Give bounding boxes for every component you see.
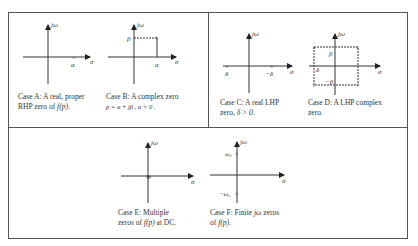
panel-f-caption-math: f(p) (218, 218, 229, 227)
panel-a-alpha-label: α (71, 61, 75, 69)
panel-c-zero-marker-left: × (225, 64, 228, 70)
panel-d-zero-marker-tr: × (356, 45, 359, 51)
panel-b-real-label: σ (175, 58, 179, 66)
panel-f-zero-marker-top: × (235, 151, 238, 157)
panel-c-neg-delta-label: −δ (265, 70, 274, 78)
panel-f-caption-line1-prefix: : Finite (231, 208, 254, 217)
zero-location-figure: jω σ × α jω σ × β α jω σ × × δ −δ (0, 0, 418, 246)
panel-c-caption-suffix: . (253, 108, 255, 117)
panel-d-case-label: Case D (308, 98, 330, 107)
panel-d-imag-label: jω (337, 30, 345, 38)
panel-c-plot: jω σ × × δ −δ (223, 30, 294, 93)
panel-b-alpha-label: α (155, 61, 159, 69)
panel-e-caption-suffix: at DC. (155, 218, 176, 227)
panel-a-plot: jω σ × α (23, 21, 94, 84)
panel-f-caption-line2-prefix: of (210, 218, 218, 227)
panel-f-caption-suffix: . (229, 218, 231, 227)
panel-d-zero-marker-bl: × (312, 83, 315, 89)
panel-b-caption-line1: : A complex zero (127, 92, 178, 101)
panel-c-case-label: Case C (220, 98, 241, 107)
panel-e-real-label: σ (191, 178, 195, 186)
panel-c-caption: Case C: A real LHP zero, δ > 0. (220, 98, 279, 117)
panel-d-real-label: σ (378, 68, 382, 76)
panel-b-zero-marker: × (155, 35, 158, 41)
panel-f-neg-omega-label: −ω₀ (219, 190, 230, 197)
panel-a-caption-suffix: . (68, 102, 70, 111)
diagram-canvas: jω σ × α jω σ × β α jω σ × × δ −δ (0, 0, 418, 246)
panel-e-caption-line1: : Multiple (139, 208, 169, 217)
panel-b-beta-label: β (126, 35, 131, 43)
panel-a-real-label: σ (90, 58, 94, 66)
panel-d-beta-label: β (328, 50, 333, 58)
panel-d-plot: jω σ × × × × β δ −β (309, 30, 382, 95)
panel-f-caption: Case F: Finite jω zeros of f(p). (210, 208, 279, 227)
panel-c-caption-line1: : A real LHP (241, 98, 279, 107)
panel-f-case-label: Case F (210, 208, 231, 217)
panel-a-caption: Case A: A real, proper RHP zero of f(p). (18, 92, 84, 111)
panel-b-plot: jω σ × β α (108, 21, 179, 84)
panel-d-zero-marker-br: × (356, 83, 359, 89)
panel-d-caption-line1: : A LHP complex (330, 98, 382, 107)
panel-f-imag-label: jω (239, 138, 247, 146)
panel-b-case-label: Case B (106, 92, 127, 101)
panel-f-zero-marker-bottom: × (235, 191, 238, 197)
panel-a-imag-label: jω (50, 21, 58, 29)
panel-a-caption-line2-prefix: RHP zero of (18, 102, 57, 111)
panel-e-caption-line2-prefix: zeros of (118, 218, 144, 227)
panel-d-neg-beta-label: −β (325, 78, 334, 86)
panel-b-imag-label: jω (136, 21, 144, 29)
panel-f-plot: jω σ × × ω₀ −ω₀ (210, 138, 286, 203)
panel-a-caption-line1: : A real, proper (39, 92, 84, 101)
panel-c-caption-line2-prefix: zero, (220, 108, 237, 117)
panel-d-delta-label: δ (316, 66, 320, 74)
panel-d-zero-marker-tl: × (312, 45, 315, 51)
panel-e-plot: jω σ ⊗ (121, 139, 195, 203)
panel-f-omega-label: ω₀ (225, 150, 232, 157)
panel-e-case-label: Case E (118, 208, 139, 217)
panel-e-zero-marker: ⊗ (146, 174, 151, 180)
panel-f-real-label: σ (282, 177, 286, 185)
panel-d-caption-line2: zero. (308, 108, 323, 117)
panel-a-zero-marker: × (72, 55, 75, 61)
panel-c-delta-label: δ (225, 70, 229, 78)
panel-c-zero-marker-right: × (270, 64, 273, 70)
panel-c-imag-label: jω (251, 30, 259, 38)
panel-c-caption-math: δ > 0 (237, 108, 253, 117)
panel-e-caption: Case E: Multiple zeros of f(p) at DC. (118, 208, 176, 227)
panel-a-case-label: Case A (18, 92, 39, 101)
panel-b-caption: Case B: A complex zero p = α + jβ , α > … (106, 92, 179, 111)
panel-e-caption-math: f(p) (144, 218, 155, 227)
panel-c-real-label: σ (290, 68, 294, 76)
panel-d-caption: Case D: A LHP complex zero. (308, 98, 382, 117)
panel-a-caption-math: f(p) (57, 102, 68, 111)
panel-e-imag-label: jω (150, 139, 158, 147)
panel-f-caption-line1-suffix: zeros (261, 208, 279, 217)
panel-b-caption-math: p = α + jβ , α > 0 . (106, 103, 155, 110)
